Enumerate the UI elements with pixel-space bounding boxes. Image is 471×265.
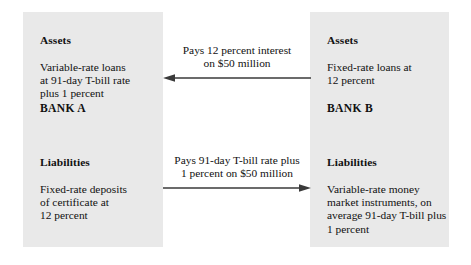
bank-a-assets-heading: Assets [40, 34, 160, 47]
arrow-left-icon [163, 72, 311, 84]
bank-a-liabilities-block: Liabilities Fixed-rate deposits of certi… [40, 143, 160, 236]
bank-b-name-label: BANK B [327, 102, 373, 115]
bank-b-liabilities-heading: Liabilities [327, 156, 455, 169]
bank-a-assets-block: Assets Variable-rate loans at 91-day T-b… [40, 21, 160, 114]
bank-a-liabilities-body: Fixed-rate deposits of certificate at 12… [40, 183, 160, 223]
bank-a-name-label: BANK A [40, 102, 86, 115]
arrow-right-icon [163, 182, 311, 194]
bank-b-assets-heading: Assets [327, 34, 449, 47]
bank-b-liabilities-body: Variable-rate money market instruments, … [327, 183, 455, 236]
bank-a-assets-body: Variable-rate loans at 91-day T-bill rat… [40, 61, 160, 101]
diagram-canvas: Assets Variable-rate loans at 91-day T-b… [0, 0, 471, 265]
top-flow-caption: Pays 12 percent interest on $50 million [157, 44, 317, 71]
bank-b-assets-block: Assets Fixed-rate loans at 12 percent [327, 21, 449, 101]
bank-b-assets-body: Fixed-rate loans at 12 percent [327, 61, 449, 88]
bank-b-liabilities-block: Liabilities Variable-rate money market i… [327, 143, 455, 249]
bottom-flow-caption: Pays 91-day T-bill rate plus 1 percent o… [157, 154, 317, 181]
bank-a-liabilities-heading: Liabilities [40, 156, 160, 169]
